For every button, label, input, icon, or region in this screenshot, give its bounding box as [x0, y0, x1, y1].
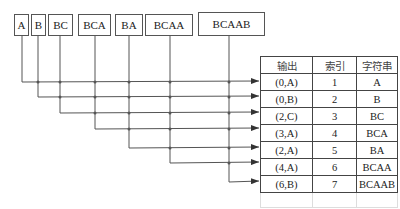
- cell-string: BCAAB: [357, 176, 398, 193]
- table-row: (2,C) 3 BC: [261, 108, 398, 125]
- cell-string: A: [357, 74, 398, 91]
- table-empty-row: [261, 193, 398, 208]
- cell-index: 7: [313, 176, 357, 193]
- cell-index: 6: [313, 159, 357, 176]
- table-row: (0,B) 2 B: [261, 91, 398, 108]
- header-output: 输出: [261, 57, 313, 74]
- cell-output: (6,B): [261, 176, 313, 193]
- cell-string: B: [357, 91, 398, 108]
- cell-output: (0,B): [261, 91, 313, 108]
- table-header-row: 输出 索引 字符串: [261, 57, 398, 74]
- table-row: (2,A) 5 BA: [261, 142, 398, 159]
- cell-string: BC: [357, 108, 398, 125]
- cell-string: BCA: [357, 125, 398, 142]
- cell-output: (3,A): [261, 125, 313, 142]
- cell-output: (0,A): [261, 74, 313, 91]
- cell-index: 1: [313, 74, 357, 91]
- cell-index: 5: [313, 142, 357, 159]
- header-string: 字符串: [357, 57, 398, 74]
- cell-string: BA: [357, 142, 398, 159]
- table-row: (0,A) 1 A: [261, 74, 398, 91]
- cell-output: (2,C): [261, 108, 313, 125]
- table-row: (3,A) 4 BCA: [261, 125, 398, 142]
- dictionary-table: 输出 索引 字符串 (0,A) 1 A (0,B) 2 B (2,C) 3 BC…: [260, 56, 398, 208]
- cell-output: (2,A): [261, 142, 313, 159]
- cell-index: 2: [313, 91, 357, 108]
- cell-string: BCAA: [357, 159, 398, 176]
- cell-index: 3: [313, 108, 357, 125]
- table-row: (4,A) 6 BCAA: [261, 159, 398, 176]
- cell-output: (4,A): [261, 159, 313, 176]
- table-row: (6,B) 7 BCAAB: [261, 176, 398, 193]
- cell-index: 4: [313, 125, 357, 142]
- header-index: 索引: [313, 57, 357, 74]
